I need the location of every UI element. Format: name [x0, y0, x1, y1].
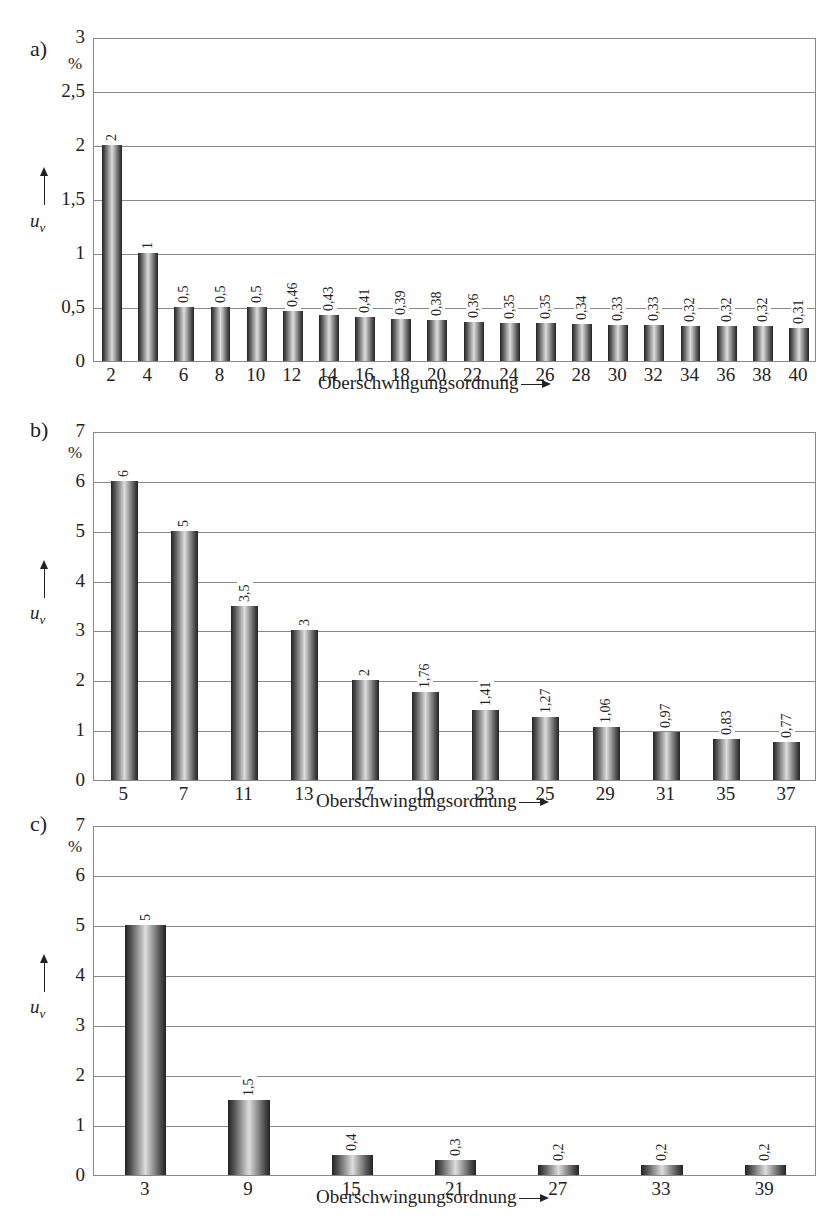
bar	[125, 925, 166, 1175]
gridline	[94, 1076, 815, 1077]
bar	[641, 1165, 682, 1175]
y-tick-label: 6	[35, 864, 85, 886]
plot-area: 51,50,40,30,20,20,2	[93, 826, 816, 1176]
gridline	[94, 1026, 815, 1027]
gridline	[94, 976, 815, 977]
bar	[745, 1165, 786, 1175]
bar	[228, 1100, 269, 1175]
y-unit: %	[68, 837, 82, 857]
gridline	[94, 1126, 815, 1127]
bar-value-label: 0,3	[448, 1137, 464, 1159]
y-tick-label: 1	[35, 1114, 85, 1136]
x-tick-label: 39	[744, 1178, 784, 1200]
x-tick-label: 9	[228, 1178, 268, 1200]
y-tick-label: 5	[35, 914, 85, 936]
x-tick-label: 3	[125, 1178, 165, 1200]
panel-c: c) % uv 51,50,40,30,20,20,2 Oberschwingu…	[0, 0, 839, 1221]
x-tick-label: 15	[331, 1178, 371, 1200]
bar-value-label: 5	[138, 912, 154, 923]
y-tick-label: 3	[35, 1014, 85, 1036]
y-tick-label: 7	[35, 814, 85, 836]
bar-value-label: 0,4	[344, 1132, 360, 1154]
y-tick-label: 4	[35, 964, 85, 986]
x-tick-label: 27	[538, 1178, 578, 1200]
bar	[332, 1155, 373, 1175]
bar-value-label: 0,2	[654, 1142, 670, 1164]
gridline	[94, 876, 815, 877]
x-tick-label: 21	[435, 1178, 475, 1200]
bar	[435, 1160, 476, 1175]
bar-value-label: 1,5	[241, 1077, 257, 1099]
gridline	[94, 926, 815, 927]
bar-value-label: 0,2	[551, 1142, 567, 1164]
bar-value-label: 0,2	[757, 1142, 773, 1164]
bar	[538, 1165, 579, 1175]
y-tick-label: 2	[35, 1064, 85, 1086]
x-tick-label: 33	[641, 1178, 681, 1200]
y-tick-label: 0	[35, 1164, 85, 1186]
